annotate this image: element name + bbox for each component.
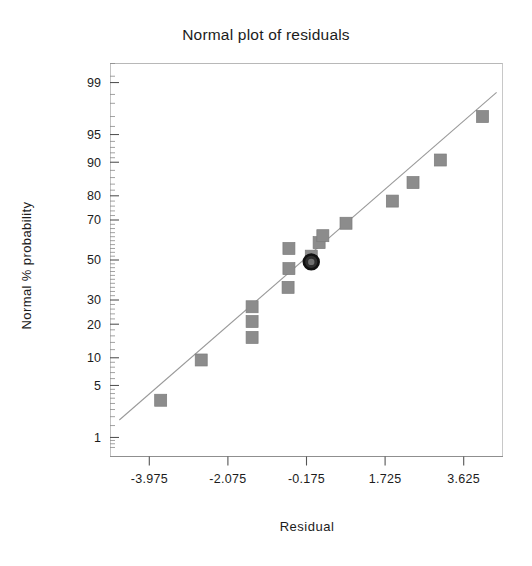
y-tick-label: 80 (87, 189, 101, 203)
data-point-marker (282, 281, 294, 293)
y-axis-tick-labels: 99959080705030201051 (87, 76, 101, 445)
data-point-marker (434, 154, 446, 166)
highlight-marker-core (308, 259, 314, 265)
y-tick-label: 70 (87, 213, 101, 227)
y-tick-label: 1 (94, 431, 101, 445)
y-tick-label: 50 (87, 253, 101, 267)
y-tick-label: 30 (87, 293, 101, 307)
x-axis-tick-labels: -3.975-2.075-0.1751.7253.625 (131, 472, 480, 486)
x-tick-label: -2.075 (209, 472, 246, 486)
normal-probability-plot: Normal plot of residuals Normal % probab… (0, 0, 532, 566)
data-point-marker (477, 111, 489, 123)
x-tick-label: 1.725 (369, 472, 402, 486)
data-point-marker (155, 394, 167, 406)
data-point-marker (195, 354, 207, 366)
highlighted-data-point (304, 255, 319, 270)
data-point-marker (283, 263, 295, 275)
y-tick-label: 10 (87, 351, 101, 365)
data-point-marker (246, 316, 258, 328)
data-point-marker (407, 177, 419, 189)
plot-canvas: 99959080705030201051 -3.975-2.075-0.1751… (0, 0, 532, 566)
x-tick-label: 3.625 (447, 472, 480, 486)
x-tick-label: -3.975 (131, 472, 168, 486)
y-tick-label: 95 (87, 128, 101, 142)
y-tick-label: 90 (87, 156, 101, 170)
data-point-marker (386, 195, 398, 207)
data-point-marker (283, 242, 295, 254)
y-tick-label: 5 (94, 379, 101, 393)
y-axis-major-ticks (110, 83, 119, 438)
data-point-marker (340, 217, 352, 229)
y-tick-label: 99 (87, 76, 101, 90)
data-point-marker (246, 331, 258, 343)
x-axis-major-ticks (149, 457, 463, 466)
data-point-marker (317, 230, 329, 242)
data-points (155, 111, 489, 407)
y-tick-label: 20 (87, 318, 101, 332)
data-point-marker (246, 301, 258, 313)
x-tick-label: -0.175 (288, 472, 325, 486)
